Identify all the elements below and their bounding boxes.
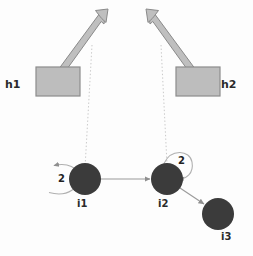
host-box-h2: [176, 67, 220, 96]
block-arrow-h1-uplink: [55, 9, 109, 76]
self-loop-label-i1: 2: [58, 174, 65, 184]
block-arrow-h2-uplink: [146, 9, 200, 76]
node-label-i3: i3: [221, 232, 231, 242]
dotted-link-h2-to-i2: [161, 45, 167, 164]
diagram-svg: [0, 0, 253, 256]
edge-i2-to-i3: [180, 188, 204, 204]
node-label-i1: i1: [77, 199, 87, 209]
node-i1: [69, 163, 101, 195]
host-label-h1: h1: [5, 79, 21, 90]
host-label-h2: h2: [221, 79, 237, 90]
node-i3: [202, 198, 234, 230]
node-i2: [151, 163, 183, 195]
self-loop-label-i2: 2: [178, 156, 185, 166]
dotted-link-h1-to-i1: [85, 45, 92, 168]
diagram-canvas: h1 h2 i1 i2 i3 2 2: [0, 0, 253, 256]
dotted-link-group: [85, 45, 167, 168]
node-label-i2: i2: [158, 199, 168, 209]
host-box-h1: [36, 67, 80, 96]
